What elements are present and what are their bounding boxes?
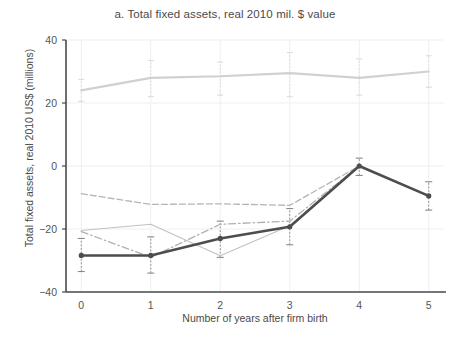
chart-figure: a. Total fixed assets, real 2010 mil. $ … (0, 0, 450, 337)
data-point-marker (148, 253, 153, 258)
data-point-marker (357, 163, 362, 168)
y-tick-label: −40 (39, 286, 57, 298)
data-point-marker (218, 236, 223, 241)
x-tick-label: 2 (217, 299, 223, 311)
y-tick-label: −20 (39, 223, 57, 235)
x-axis-ticks: 012345 (78, 299, 431, 311)
data-point-marker (79, 253, 84, 258)
x-tick-label: 5 (426, 299, 432, 311)
series-line-series-5-dark-solid (81, 166, 428, 255)
x-tick-label: 0 (78, 299, 84, 311)
series-line-series-4-thin-solid (81, 166, 428, 256)
data-markers (79, 163, 432, 258)
error-bars (78, 53, 432, 274)
series-line-series-3-dash-dot (81, 166, 428, 257)
y-tick-label: 20 (45, 97, 57, 109)
x-tick-label: 3 (287, 299, 293, 311)
data-point-marker (426, 193, 431, 198)
x-tick-label: 1 (148, 299, 154, 311)
y-tick-label: 0 (51, 160, 57, 172)
x-tick-label: 4 (356, 299, 362, 311)
plot-area: 40200−20−40 012345 (0, 0, 450, 337)
y-tick-label: 40 (45, 34, 57, 46)
y-axis-ticks: 40200−20−40 (39, 34, 66, 298)
series-line-series-2-dashed (81, 166, 428, 205)
data-point-marker (287, 224, 292, 229)
series-line-series-1-light-solid (81, 72, 428, 91)
